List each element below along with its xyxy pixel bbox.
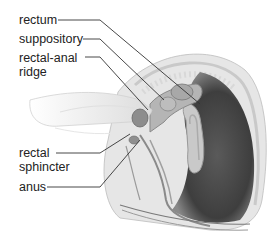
label-suppository: suppository <box>19 32 83 46</box>
label-text-line-1: rectal-anal <box>19 51 77 65</box>
suppository <box>132 109 148 127</box>
label-text: anus <box>19 180 46 194</box>
anatomical-figure: rectum suppository rectal-anal ridge rec… <box>0 0 278 243</box>
label-text-line-2: ridge <box>19 65 77 79</box>
label-rectum: rectum <box>19 13 57 27</box>
label-anus: anus <box>19 180 46 194</box>
label-text-line-2: sphincter <box>19 160 70 174</box>
label-rectal-sphincter: rectal sphincter <box>19 146 70 174</box>
label-text: suppository <box>19 32 83 46</box>
label-text: rectum <box>19 13 57 27</box>
label-rectal-anal-ridge: rectal-anal ridge <box>19 51 77 79</box>
label-text-line-1: rectal <box>19 146 70 160</box>
